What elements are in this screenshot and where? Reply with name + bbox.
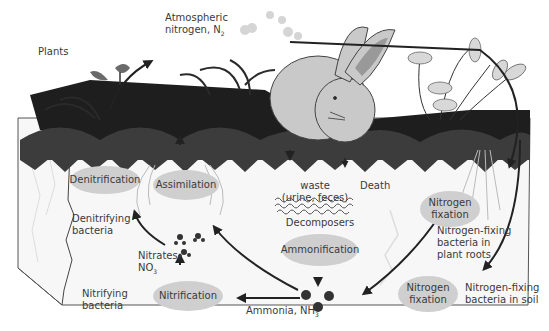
fixation-upper-line2: fixation — [431, 209, 469, 221]
nitrates-label: Nitrates, NO3 — [138, 250, 181, 274]
denitrifying-line1: Denitrifying — [72, 213, 131, 225]
death-label: Death — [360, 180, 390, 192]
atmospheric-subscript: 2 — [221, 30, 225, 37]
fixation-lower-line1: Nitrogen — [406, 282, 449, 294]
plants-label: Plants — [38, 46, 68, 58]
waste-line1: waste — [270, 180, 360, 192]
nitrates-line1: Nitrates, — [138, 250, 181, 262]
denitrification-oval: Denitrification — [70, 166, 140, 194]
nitrifying-bacteria-label: Nitrifying bacteria — [82, 288, 128, 312]
ammonia-label: Ammonia, NH3 — [246, 305, 319, 317]
fixing-soil-line1: Nitrogen-fixing — [465, 282, 539, 294]
nitrogen-fixation-roots-oval: Nitrogen fixation — [420, 191, 480, 227]
atmospheric-line2: nitrogen, N2 — [165, 24, 228, 36]
nitrifying-line2: bacteria — [82, 300, 128, 312]
nitrification-oval: Nitrification — [153, 281, 223, 311]
atmospheric-line1: Atmospheric — [165, 12, 228, 24]
nitrogen-gas-icon — [240, 11, 302, 40]
ammonification-oval: Ammonification — [282, 234, 358, 266]
fixation-upper-line1: Nitrogen — [428, 197, 471, 209]
fixing-roots-line2: bacteria in — [437, 237, 511, 249]
denitrifying-bacteria-label: Denitrifying bacteria — [72, 213, 131, 237]
denitrifying-line2: bacteria — [72, 225, 131, 237]
atmospheric-formula: nitrogen, N — [165, 24, 221, 35]
nitrifying-line1: Nitrifying — [82, 288, 128, 300]
ammonia-formula: Ammonia, NH — [246, 305, 315, 316]
nitrogen-cycle-diagram: Plants Atmospheric nitrogen, N2 waste (u… — [0, 0, 549, 331]
decomposers-label: Decomposers — [278, 217, 362, 229]
waste-label: waste (urine, feces) — [270, 180, 360, 204]
nitrogen-fixation-soil-oval: Nitrogen fixation — [398, 276, 458, 312]
fixing-bacteria-roots-label: Nitrogen-fixing bacteria in plant roots — [437, 225, 511, 261]
assimilation-oval: Assimilation — [153, 170, 219, 200]
nitrates-formula: NO — [138, 262, 153, 273]
ammonia-subscript: 3 — [315, 311, 319, 318]
fixing-soil-line2: bacteria in soil — [465, 294, 539, 306]
nitrates-subscript: 3 — [153, 268, 157, 275]
fixation-lower-line2: fixation — [409, 294, 447, 306]
waste-line2: (urine, feces) — [270, 192, 360, 204]
fixing-roots-line3: plant roots — [437, 249, 511, 261]
fixing-bacteria-soil-label: Nitrogen-fixing bacteria in soil — [465, 282, 539, 306]
atmospheric-nitrogen-label: Atmospheric nitrogen, N2 — [165, 12, 228, 36]
